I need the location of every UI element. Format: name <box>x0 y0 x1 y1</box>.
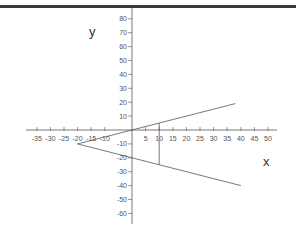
x-tick-label: -30 <box>45 135 55 142</box>
x-tick-label: 30 <box>210 135 218 142</box>
coordinate-plane: -35-30-25-20-15-105101520253035404550807… <box>0 0 296 238</box>
y-tick-label: 20 <box>119 99 127 106</box>
chart-frame: -35-30-25-20-15-105101520253035404550807… <box>0 0 296 238</box>
y-tick-label: 80 <box>119 15 127 22</box>
x-tick-label: 25 <box>196 135 204 142</box>
y-tick-label: 10 <box>119 113 127 120</box>
y-tick-label: 70 <box>119 29 127 36</box>
y-tick-label: 30 <box>119 85 127 92</box>
y-axis-title: y <box>89 24 96 39</box>
y-tick-label: -50 <box>117 196 127 203</box>
x-tick-label: -20 <box>73 135 83 142</box>
y-tick-label: 60 <box>119 43 127 50</box>
y-tick-label: -30 <box>117 168 127 175</box>
x-tick-label: -35 <box>32 135 42 142</box>
y-tick-label: 50 <box>119 57 127 64</box>
x-axis-title: x <box>263 154 270 169</box>
y-tick-label: -60 <box>117 210 127 217</box>
x-tick-label: 50 <box>264 135 272 142</box>
x-tick-label: 20 <box>183 135 191 142</box>
x-tick-label: 35 <box>223 135 231 142</box>
y-tick-label: -40 <box>117 182 127 189</box>
x-tick-label: 15 <box>169 135 177 142</box>
x-tick-label: -25 <box>59 135 69 142</box>
x-tick-label: 40 <box>237 135 245 142</box>
y-tick-label: -10 <box>117 140 127 147</box>
y-tick-label: 40 <box>119 71 127 78</box>
x-tick-label: 5 <box>144 135 148 142</box>
x-tick-label: 45 <box>251 135 259 142</box>
